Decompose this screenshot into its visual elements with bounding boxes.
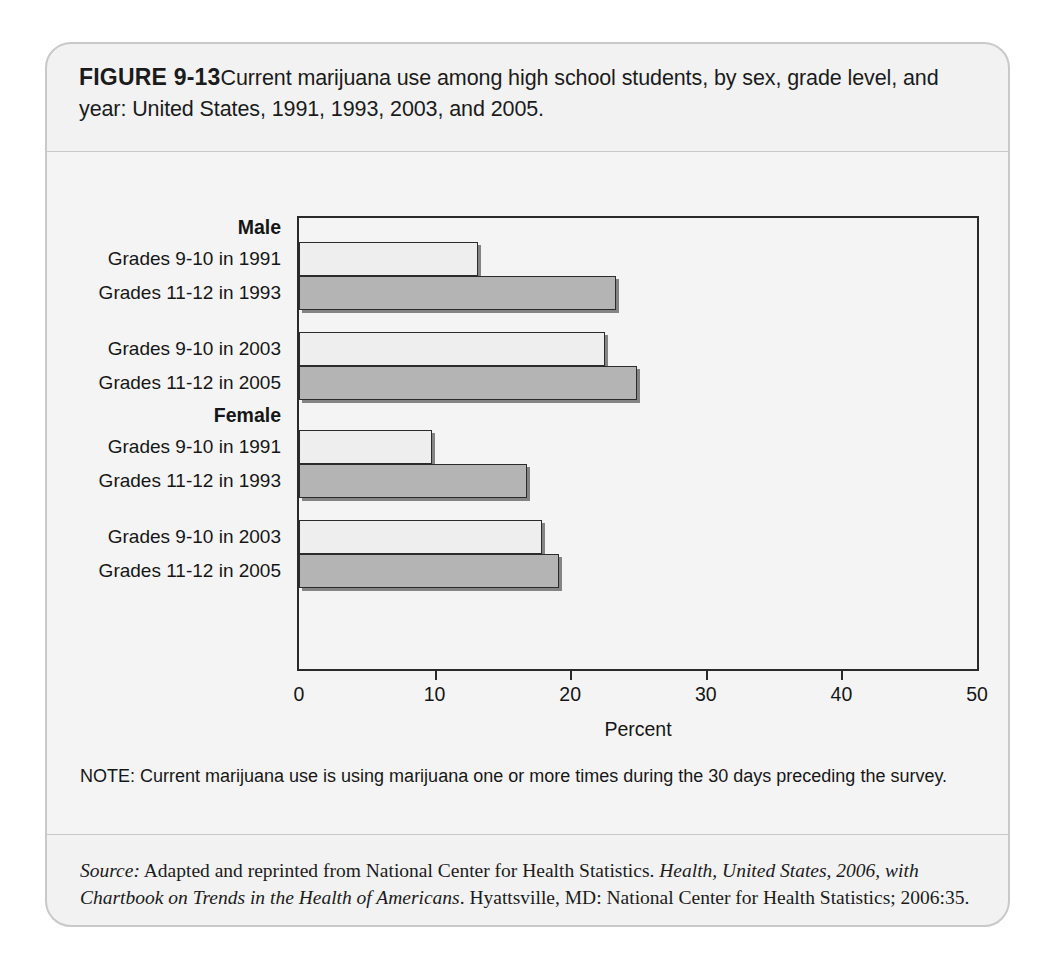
y-axis-label: Grades 11-12 in 2005 [99,560,281,582]
bar-female-1 [299,464,527,498]
bar-female-3 [299,554,559,588]
y-axis-label: Grades 9-10 in 1991 [108,436,281,458]
chart-area: MaleGrades 9-10 in 1991Grades 11-12 in 1… [47,152,1008,834]
bar-rows [297,216,979,671]
x-axis-tick [841,671,843,680]
bar-row [299,276,977,310]
plot-wrapper: MaleGrades 9-10 in 1991Grades 11-12 in 1… [47,152,1008,834]
x-axis-tick-label: 50 [966,683,988,706]
bar-male-0 [299,242,478,276]
bar-row [299,332,977,366]
figure-title-block: FIGURE 9-13Current marijuana use among h… [47,44,1008,150]
figure-note: NOTE: Current marijuana use is using mar… [80,764,978,789]
bar-male-2 [299,332,605,366]
y-axis-label: Grades 9-10 in 2003 [108,338,281,360]
y-axis-label: Grades 11-12 in 2005 [99,372,281,394]
x-axis-tick [299,671,301,680]
x-axis-tick-label: 40 [831,683,853,706]
x-axis-tick-label: 0 [294,683,305,706]
bar-female-2 [299,520,542,554]
y-axis-label: Grades 9-10 in 2003 [108,526,281,548]
bar-row [299,430,977,464]
bar-row [299,242,977,276]
bar-male-3 [299,366,637,400]
x-axis-title: Percent [297,718,979,741]
source-block: Source: Adapted and reprinted from Natio… [47,835,1008,925]
bar-row [299,554,977,588]
y-axis-labels: MaleGrades 9-10 in 1991Grades 11-12 in 1… [47,216,291,671]
source-text-part2: . Hyattsville, MD: National Center for H… [460,887,970,908]
x-axis-tick-label: 10 [424,683,446,706]
x-axis-tick [706,671,708,680]
bar-row [299,464,977,498]
source-prefix: Source: [80,860,140,881]
x-axis-tick [570,671,572,680]
x-axis-tick-label: 20 [559,683,581,706]
x-axis-tick [435,671,437,680]
source-citation: Source: Adapted and reprinted from Natio… [80,857,970,911]
x-axis-tick-label: 30 [695,683,717,706]
group-label-female: Female [214,404,281,426]
bar-female-0 [299,430,432,464]
y-axis-label: Grades 11-12 in 1993 [99,470,281,492]
y-axis-label: Grades 9-10 in 1991 [108,248,281,270]
figure-card: FIGURE 9-13Current marijuana use among h… [45,42,1010,927]
group-label-male: Male [238,216,281,238]
figure-caption: FIGURE 9-13Current marijuana use among h… [79,62,974,125]
bar-male-1 [299,276,616,310]
x-axis-tick [977,671,979,680]
bar-row [299,366,977,400]
figure-number: FIGURE 9-13 [79,64,221,90]
bar-row [299,520,977,554]
source-text-part1: Adapted and reprinted from National Cent… [140,860,659,881]
y-axis-label: Grades 11-12 in 1993 [99,282,281,304]
